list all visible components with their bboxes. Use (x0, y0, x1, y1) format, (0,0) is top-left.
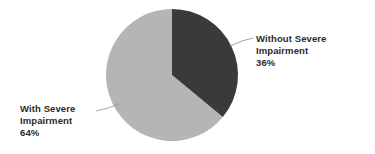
pie-label-without-severe-line2: Impairment (256, 45, 326, 57)
pie-label-with-severe-impairment: With Severe Impairment 64% (20, 103, 75, 140)
pie-label-without-severe-line1: Without Severe (256, 33, 326, 45)
pie-label-with-severe-line1: With Severe (20, 103, 75, 115)
pie-label-without-severe-value: 36% (256, 57, 326, 69)
pie-label-without-severe-impairment: Without Severe Impairment 36% (256, 33, 326, 70)
leader-line-without-severe (230, 38, 253, 46)
pie-label-with-severe-line2: Impairment (20, 115, 75, 127)
pie-label-with-severe-value: 64% (20, 127, 75, 139)
pie-chart-figure: Without Severe Impairment 36% With Sever… (0, 0, 375, 154)
